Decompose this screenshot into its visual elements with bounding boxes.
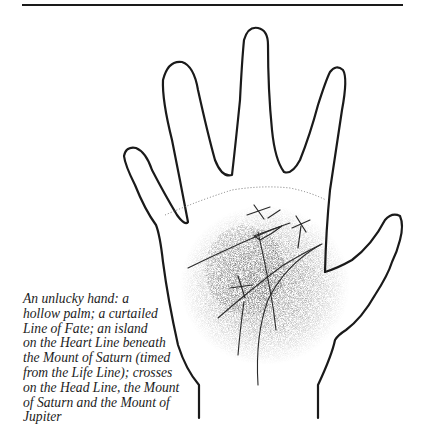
caption-line: Jupiter [23,410,188,425]
caption-line: from the Life Line); crosses [23,366,188,381]
caption-line: Line of Fate; an island [23,322,188,337]
caption-line: of Saturn and the Mount of [23,396,188,411]
caption-line: hollow palm; a curtailed [23,307,188,322]
palm-shading [180,205,350,365]
caption-line: on the Head Line, the Mount [23,381,188,396]
caption-line: the Mount of Saturn (timed [23,351,188,366]
caption-line: An unlucky hand: a [23,292,188,307]
figure-caption: An unlucky hand: a hollow palm; a curtai… [23,292,188,425]
caption-line: on the Heart Line beneath [23,336,188,351]
